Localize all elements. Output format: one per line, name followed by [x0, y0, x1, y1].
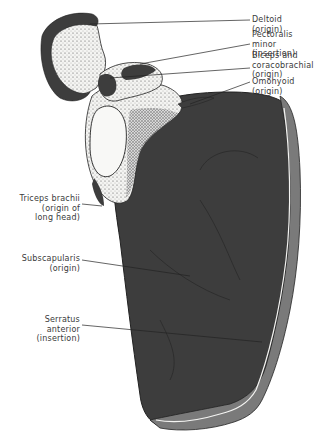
- scapula-diagram: Deltoid (origin) Pectoralis minor (inser…: [0, 0, 314, 441]
- label-triceps-brachii: Triceps brachii (origin of long head): [4, 194, 80, 223]
- label-serratus-anterior: Serratus anterior (insertion): [4, 315, 80, 344]
- label-subscapularis: Subscapularis (origin): [4, 254, 80, 273]
- label-biceps-coracobrachialis: Biceps and coracobrachialis (origin): [252, 51, 314, 80]
- label-omohyoid: Omohyoid (origin): [252, 77, 314, 96]
